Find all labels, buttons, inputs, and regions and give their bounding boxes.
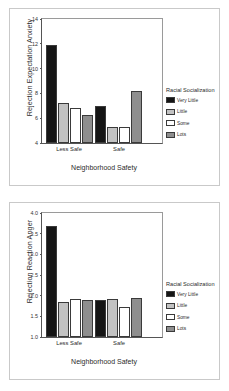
legend-title: Racial Socialization — [166, 87, 228, 93]
bar-very-little — [46, 45, 57, 143]
x-tick-label: Less Safe — [56, 146, 82, 152]
bar-some — [119, 127, 130, 143]
legend-label: Little — [177, 109, 187, 114]
legend-item[interactable]: Lots — [166, 326, 228, 332]
y-tick-label: 3.5 — [31, 231, 40, 237]
legend-item[interactable]: Very Little — [166, 97, 228, 103]
bar-group — [95, 213, 143, 337]
y-tick: 8 — [35, 90, 42, 96]
bar-very-little — [46, 226, 57, 337]
bar-group — [46, 213, 94, 337]
bar-series-group — [42, 213, 162, 337]
chart-rejection-expectation-anxiety: Rejection Expectation Anxiety 141210864 … — [9, 8, 220, 186]
bar-lots — [82, 115, 93, 143]
legend-item[interactable]: Some — [166, 120, 228, 126]
legend-swatch-lots — [166, 132, 175, 138]
x-axis-tick-labels: Less SafeSafe — [41, 340, 163, 350]
bar-little — [107, 127, 118, 143]
x-tick-label: Less Safe — [56, 340, 82, 346]
legend-label: Very Little — [177, 98, 198, 103]
y-tick-label: 10 — [32, 66, 40, 72]
chart-body: Rejection Reaction Anger 4.03.53.02.52.0… — [10, 203, 219, 379]
y-tick: 14 — [32, 16, 42, 22]
x-axis-tick-labels: Less SafeSafe — [41, 146, 163, 156]
chart-rejection-reaction-anger: Rejection Reaction Anger 4.03.53.02.52.0… — [9, 202, 220, 380]
y-tick: 10 — [32, 66, 42, 72]
bar-lots — [131, 298, 142, 337]
x-axis-title: Neighborhood Safety — [34, 358, 174, 365]
legend-swatch-little — [166, 303, 175, 309]
plot-area: 141210864 — [41, 18, 163, 144]
legend-swatch-very-little — [166, 291, 175, 297]
bar-some — [119, 307, 130, 337]
bar-some — [70, 299, 81, 337]
x-axis-title: Neighborhood Safety — [34, 164, 174, 171]
x-tick-label: Safe — [113, 340, 125, 346]
legend-item[interactable]: Very Little — [166, 291, 228, 297]
legend-label: Very Little — [177, 292, 198, 297]
chart-body: Rejection Expectation Anxiety 141210864 … — [10, 9, 219, 185]
figure-page: Rejection Expectation Anxiety 141210864 … — [0, 0, 229, 391]
bar-little — [107, 299, 118, 337]
bar-little — [58, 103, 69, 143]
legend-label: Some — [177, 315, 190, 320]
y-tick-label: 1.5 — [31, 313, 40, 319]
y-tick: 3.5 — [31, 231, 43, 237]
y-tick: 12 — [32, 41, 42, 47]
y-tick: 4.0 — [31, 210, 43, 216]
legend-item[interactable]: Lots — [166, 132, 228, 138]
y-axis-title: Rejection Reaction Anger — [25, 202, 34, 322]
y-tick-label: 3.0 — [31, 251, 40, 257]
x-tick-label: Safe — [113, 146, 125, 152]
legend-swatch-little — [166, 109, 175, 115]
bar-lots — [131, 91, 142, 143]
bar-series-group — [42, 19, 162, 143]
legend-swatch-lots — [166, 326, 175, 332]
y-tick-label: 14 — [32, 16, 40, 22]
plot-area: 4.03.53.02.52.01.51.0 — [41, 212, 163, 338]
bar-some — [70, 108, 81, 143]
bar-group — [95, 19, 143, 143]
y-tick-label: 1.0 — [31, 334, 40, 340]
bar-little — [58, 302, 69, 337]
y-tick: 3.0 — [31, 251, 43, 257]
legend-title: Racial Socialization — [166, 281, 228, 287]
legend: Racial Socialization Very LittleLittleSo… — [166, 87, 228, 143]
y-tick-label: 2.5 — [31, 272, 40, 278]
legend-swatch-some — [166, 314, 175, 320]
legend: Racial Socialization Very LittleLittleSo… — [166, 281, 228, 337]
y-tick: 2.5 — [31, 272, 43, 278]
legend-label: Lots — [177, 132, 186, 137]
legend-label: Lots — [177, 326, 186, 331]
y-tick: 1.5 — [31, 313, 43, 319]
bar-very-little — [95, 300, 106, 337]
bar-very-little — [95, 106, 106, 143]
legend-label: Some — [177, 121, 190, 126]
legend-item[interactable]: Little — [166, 303, 228, 309]
bar-lots — [82, 300, 93, 337]
y-tick: 2.0 — [31, 293, 43, 299]
legend-swatch-very-little — [166, 97, 175, 103]
bar-group — [46, 19, 94, 143]
legend-swatch-some — [166, 120, 175, 126]
y-tick-label: 2.0 — [31, 293, 40, 299]
y-tick-label: 4.0 — [31, 210, 40, 216]
legend-item[interactable]: Some — [166, 314, 228, 320]
y-tick: 6 — [35, 115, 42, 121]
legend-label: Little — [177, 303, 187, 308]
legend-item[interactable]: Little — [166, 109, 228, 115]
y-tick-label: 12 — [32, 41, 40, 47]
